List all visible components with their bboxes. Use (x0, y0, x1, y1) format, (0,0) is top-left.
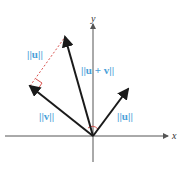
right-angle-marker (36, 79, 42, 89)
label-u-top: ||u|| (27, 48, 43, 60)
y-axis-label: y (91, 13, 95, 24)
x-axis-label: x (172, 130, 176, 141)
dashed-projection (30, 37, 65, 86)
vector-u-plus-v (65, 37, 93, 136)
vector-diagram (0, 0, 181, 177)
label-u-plus-v: ||u + v|| (81, 64, 114, 76)
label-v: ||v|| (39, 110, 54, 122)
label-u-right: ||u|| (117, 110, 133, 122)
